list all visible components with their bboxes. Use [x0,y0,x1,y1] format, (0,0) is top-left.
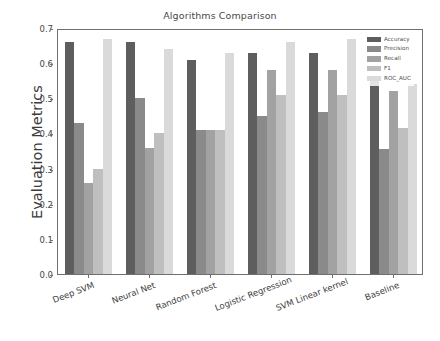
y-tick-label: 0.7 [7,24,53,34]
bar [206,130,215,274]
x-tick-mark [393,275,394,278]
bar [154,133,163,274]
y-tick-label: 0.5 [7,94,53,104]
bar [126,42,135,274]
bar [337,95,346,274]
bar [103,39,112,274]
bar [398,128,407,274]
legend-swatch [367,56,381,62]
bar [257,116,266,274]
legend-item: Recall [367,55,411,64]
legend-swatch [367,66,381,72]
legend-label: F1 [384,66,391,72]
bar [389,91,398,274]
x-tick-label: Logistic Regression [213,280,278,313]
bar [135,98,144,274]
legend-label: Accuracy [384,37,410,43]
bar [408,84,417,274]
x-tick-label: Deep SVM [30,280,95,313]
legend-label: Recall [384,56,401,62]
legend-swatch [367,46,381,52]
x-axis-ticks: Deep SVMNeural NetRandom ForestLogistic … [57,275,423,341]
y-tick-label: 0.6 [7,59,53,69]
bar [93,169,102,274]
y-tick-mark [50,240,53,241]
bar [318,112,327,274]
x-tick-mark [149,275,150,278]
bar [196,130,205,274]
bar [145,148,154,275]
legend-swatch [367,76,381,82]
x-tick-mark [88,275,89,278]
bar [379,149,388,274]
legend-item: ROC_AUC [367,74,411,83]
bar [248,53,257,274]
y-tick-mark [50,275,53,276]
legend-label: ROC_AUC [384,76,411,82]
chart-title: Algorithms Comparison [0,10,440,21]
legend-item: Accuracy [367,35,411,44]
y-tick-label: 0.1 [7,235,53,245]
bar [347,39,356,274]
bar [309,53,318,274]
y-tick-label: 0.3 [7,165,53,175]
legend-swatch [367,37,381,43]
legend-item: F1 [367,64,411,73]
y-tick-mark [50,64,53,65]
bar [187,60,196,274]
y-tick-mark [50,99,53,100]
bar [328,70,337,274]
y-tick-mark [50,29,53,30]
x-tick-mark [332,275,333,278]
bar [286,42,295,274]
bar [65,42,74,274]
bar [164,49,173,274]
y-tick-label: 0.0 [7,270,53,280]
figure-canvas: Algorithms Comparison Evaluation Metrics… [0,0,440,341]
bar [215,130,224,274]
y-tick-label: 0.4 [7,129,53,139]
bar [74,123,83,274]
legend-item: Precision [367,45,411,54]
legend-label: Precision [384,46,409,52]
bar [225,53,234,274]
x-tick-mark [271,275,272,278]
x-tick-label: Random Forest [152,280,217,313]
bar [276,95,285,274]
x-tick-label: Neural Net [91,280,156,313]
y-tick-mark [50,134,53,135]
legend: AccuracyPrecisionRecallF1ROC_AUC [364,33,414,86]
bar [84,183,93,274]
y-tick-mark [50,205,53,206]
bar [267,70,276,274]
x-tick-mark [210,275,211,278]
y-tick-mark [50,170,53,171]
y-tick-label: 0.2 [7,200,53,210]
y-axis-ticks: 0.00.10.20.30.40.50.60.7 [0,29,53,275]
bar [370,81,379,274]
